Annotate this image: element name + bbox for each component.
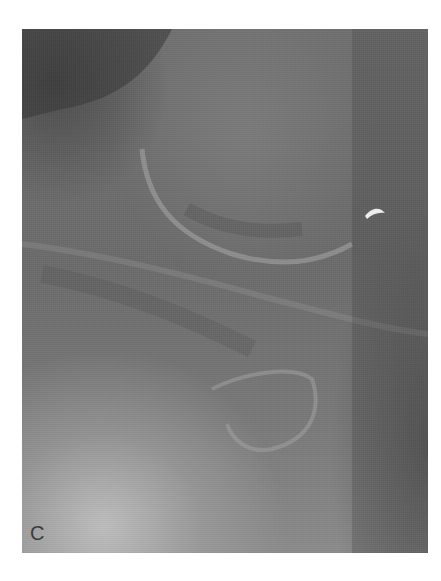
- panel-label: C: [30, 523, 44, 543]
- film-grain: [22, 29, 428, 553]
- radiograph-panel: C: [22, 29, 428, 553]
